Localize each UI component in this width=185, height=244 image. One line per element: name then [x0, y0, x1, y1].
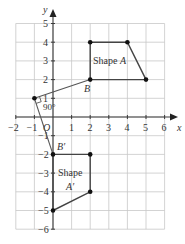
x-tick-label: 1 [69, 122, 74, 133]
x-tick-label: −1 [27, 122, 38, 133]
x-axis-arrow-icon [170, 114, 178, 121]
x-tick-label: 2 [88, 122, 93, 133]
shape-a-prime-label-line1: Shape [58, 167, 83, 178]
shape-a-prime-label-line2: A′ [65, 181, 75, 192]
y-tick-label: −5 [38, 205, 49, 216]
y-tick-label: −2 [38, 149, 49, 160]
y-tick-label: 3 [43, 55, 48, 66]
y-tick-label: 5 [43, 18, 48, 29]
center-of-rotation-point [32, 96, 37, 101]
rotation-diagram: x y O −2 −1 1 2 3 4 5 6 5 4 3 2 1 −1 −2 … [0, 0, 185, 244]
y-tick-label: −3 [38, 168, 49, 179]
angle-label: 90° [43, 102, 56, 112]
x-tick-label: 3 [106, 122, 111, 133]
point-b-prime-label: B′ [57, 141, 66, 152]
point-b-label: B [84, 83, 90, 94]
shape-a-label: Shape A [93, 55, 127, 66]
y-tick-label: 4 [43, 37, 48, 48]
x-tick-labels: −2 −1 1 2 3 4 5 6 [8, 122, 167, 133]
y-tick-label: −4 [38, 186, 49, 197]
y-axis-label: y [42, 4, 48, 15]
x-tick-label: −2 [8, 122, 19, 133]
y-tick-label: 2 [43, 74, 48, 85]
y-axis-arrow-icon [50, 9, 57, 17]
x-axis-label: x [176, 122, 182, 133]
x-tick-label: 5 [143, 122, 148, 133]
y-tick-label: −6 [38, 224, 49, 235]
x-tick-label: 6 [162, 122, 167, 133]
x-tick-label: 4 [125, 122, 130, 133]
